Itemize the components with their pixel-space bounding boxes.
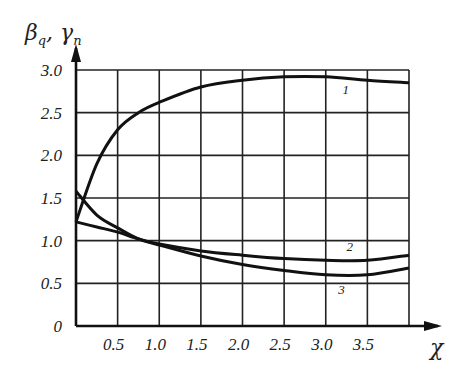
curve-label: 2 [347,239,354,254]
y-tick-label: 1.5 [41,189,62,208]
grid-lines [76,70,409,326]
y-tick-label: 2.0 [41,146,63,165]
x-axis-label: χ [428,335,445,360]
x-tick-labels: 0.51.01.52.02.53.03.5 [103,335,374,354]
y-tick-labels: 00.51.01.52.02.53.0 [40,61,63,336]
x-tick-label: 3.5 [352,335,374,354]
y-axis-label: βq, γn [24,20,82,48]
y-tick-label: 1.0 [41,232,63,251]
x-tick-label: 1.0 [145,335,167,354]
curve-label: 3 [337,282,345,297]
x-tick-label: 3.0 [310,335,333,354]
y-tick-label: 0 [54,317,63,336]
curve-labels: 123 [337,82,353,297]
y-tick-label: 3.0 [40,61,63,80]
curve-label: 1 [342,82,349,97]
x-tick-label: 2.5 [270,335,291,354]
x-tick-label: 1.5 [186,335,207,354]
y-tick-label: 0.5 [41,274,62,293]
x-axis-arrow-icon [424,321,442,331]
chart: 00.51.01.52.02.53.0 0.51.01.52.02.53.03.… [0,0,471,369]
axes [71,44,442,331]
y-tick-label: 2.5 [41,104,62,123]
x-tick-label: 0.5 [103,335,124,354]
x-tick-label: 2.0 [228,335,250,354]
